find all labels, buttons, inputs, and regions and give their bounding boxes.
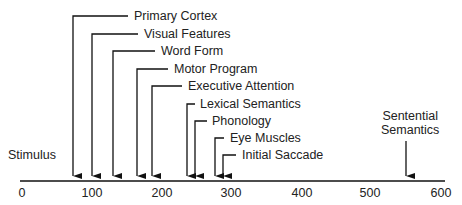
tick-500: 500	[360, 186, 381, 200]
tick-600: 600	[431, 186, 452, 200]
label-sentential-line2: Semantics	[381, 123, 439, 137]
label-sentential-line1: Sentential	[381, 109, 439, 123]
tick-400: 400	[292, 186, 313, 200]
label-executive-attention: Executive Attention	[188, 79, 294, 93]
label-word-form: Word Form	[161, 44, 223, 58]
tick-200: 200	[152, 186, 173, 200]
label-phonology: Phonology	[212, 114, 271, 128]
label-initial-saccade: Initial Saccade	[242, 148, 323, 162]
label-eye-muscles: Eye Muscles	[230, 131, 301, 145]
tick-0: 0	[19, 186, 26, 200]
label-primary-cortex: Primary Cortex	[134, 9, 217, 23]
tick-100: 100	[82, 186, 103, 200]
tick-300: 300	[221, 186, 242, 200]
label-visual-features: Visual Features	[144, 27, 231, 41]
label-motor-program: Motor Program	[174, 62, 257, 76]
label-lexical-semantics: Lexical Semantics	[200, 97, 301, 111]
label-sentential: Sentential Semantics	[381, 109, 439, 137]
label-stimulus: Stimulus	[8, 148, 56, 162]
